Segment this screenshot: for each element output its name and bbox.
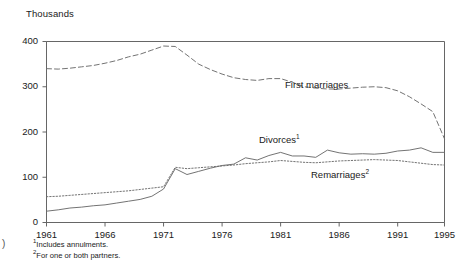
series-line-first-marriages xyxy=(47,46,445,139)
y-tick-label: 300 xyxy=(12,80,38,91)
x-tick-label: 1971 xyxy=(144,229,184,240)
y-tick-label: 0 xyxy=(12,216,38,227)
series-line-divorces xyxy=(47,148,445,211)
footnotes: 1Includes annulments. 2For one or both p… xyxy=(33,240,120,261)
footnote-2: 2For one or both partners. xyxy=(33,251,120,262)
y-tick-label: 200 xyxy=(12,126,38,137)
x-tick-label: 1986 xyxy=(319,229,359,240)
x-tick-label: 1966 xyxy=(85,229,125,240)
axes-group xyxy=(43,42,445,227)
marriages-divorces-line-chart: Thousands ) 0100200300400 19611966197119… xyxy=(0,0,467,266)
y-tick-label: 400 xyxy=(12,35,38,46)
x-tick-label: 1981 xyxy=(261,229,301,240)
series-label-divorces: Divorces1 xyxy=(259,134,300,145)
x-tick-label: 1976 xyxy=(202,229,242,240)
series-group xyxy=(47,46,445,211)
x-tick-label: 1991 xyxy=(378,229,418,240)
footnote-1: 1Includes annulments. xyxy=(33,240,120,251)
y-tick-label: 100 xyxy=(12,171,38,182)
series-label-first-marriages: First marriages xyxy=(285,79,348,90)
series-line-remarriages xyxy=(47,160,445,197)
series-label-remarriages: Remarriages2 xyxy=(311,169,369,180)
x-tick-label: 1995 xyxy=(425,229,465,240)
plot-area xyxy=(0,0,467,266)
